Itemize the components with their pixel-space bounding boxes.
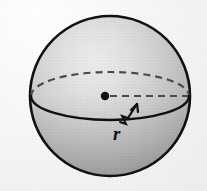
sphere-diagram-canvas: r bbox=[0, 0, 207, 191]
center-dot bbox=[101, 92, 109, 100]
sphere-figure: r bbox=[0, 0, 207, 191]
radius-label: r bbox=[113, 123, 121, 144]
arrow-head-right bbox=[137, 104, 138, 112]
sphere-body bbox=[30, 16, 190, 186]
sphere-inner-shading bbox=[30, 16, 190, 186]
halftone-texture bbox=[30, 16, 190, 186]
